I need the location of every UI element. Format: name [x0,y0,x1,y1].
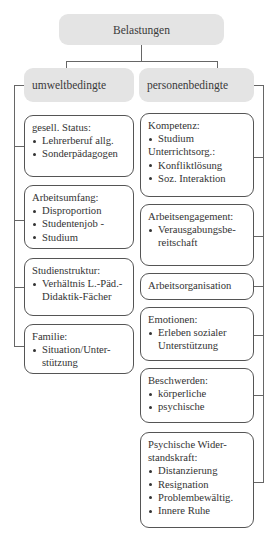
right-tick-3 [254,286,263,287]
left-spine [14,85,15,347]
node-title: Emotionen: [148,313,247,326]
list-item: Studentenjob - [32,217,127,230]
connector-root-down [141,45,142,62]
node-psychische-widerstandskraft: Psychische Wider- standskraft: Distanzie… [140,432,254,528]
node-title: Arbeitsorganisation [148,279,247,292]
list-item: Disproportion [32,204,127,217]
left-tick-2 [14,220,24,221]
node-title: Studienstruktur: [32,264,127,277]
category-umweltbedingte: umweltbedingte [24,68,134,102]
list-item: Erleben sozialer Unterstützung [148,326,247,352]
node-title: Arbeitsengagement: [148,210,247,223]
list-item: Situation/Unter- stützung [32,343,127,369]
right-tick-5 [254,395,263,396]
list-item: Sonderpädagogen [32,147,127,160]
list-item: Studium [148,132,247,145]
node-arbeitsengagement: Arbeitsengagement: Verausgabungsbe- reit… [140,204,254,266]
node-title: Kompetenz: [148,119,247,132]
root-node: Belastungen [59,14,224,45]
right-spine [263,85,264,483]
category-label: personenbedingte [139,79,228,91]
list-item: Verhältnis L.-Päd.- Didaktik-Fächer [32,277,127,303]
right-spine-top [253,85,263,86]
left-tick-4 [14,346,24,347]
left-spine-top [14,85,24,86]
category-personenbedingte: personenbedingte [139,68,254,102]
node-title: Arbeitsumfang: [32,191,127,204]
node-familie: Familie: Situation/Unter- stützung [24,324,134,374]
list-item: Problembewältig. [148,491,247,504]
node-subtitle: Unterrichtsorg.: [148,145,247,158]
node-beschwerden: Beschwerden: körperliche psychische [140,368,254,423]
node-title: Psychische Wider- standskraft: [148,438,247,464]
list-item: Konfliktlösung [148,159,247,172]
node-studienstruktur: Studienstruktur: Verhältnis L.-Päd.- Did… [24,258,134,316]
list-item: Distanzierung [148,464,247,477]
list-item: Innere Ruhe [148,504,247,517]
root-label: Belastungen [113,24,170,36]
category-label: umweltbedingte [24,79,106,91]
node-arbeitsorganisation: Arbeitsorganisation [140,273,254,300]
node-emotionen: Emotionen: Erleben sozialer Unterstützun… [140,307,254,361]
list-item: Verausgabungsbe- reitschaft [148,223,247,249]
list-item: körperliche [148,387,247,400]
list-item: psychische [148,400,247,413]
connector-horizontal [66,61,218,62]
right-tick-2 [254,236,263,237]
node-arbeitsumfang: Arbeitsumfang: Disproportion Studentenjo… [24,185,134,249]
node-title: Beschwerden: [148,374,247,387]
right-tick-6 [254,482,263,483]
right-tick-1 [254,157,263,158]
node-title: gesell. Status: [32,121,127,134]
left-tick-1 [14,146,24,147]
node-gesell-status: gesell. Status: Lehrerberuf allg. Sonder… [24,115,134,177]
list-item: Resignation [148,478,247,491]
node-title: Familie: [32,330,127,343]
list-item: Studium [32,231,127,244]
node-kompetenz: Kompetenz: Studium Unterrichtsorg.: Konf… [140,113,254,197]
left-tick-3 [14,287,24,288]
list-item: Soz. Interaktion [148,172,247,185]
right-tick-4 [254,335,263,336]
list-item: Lehrerberuf allg. [32,134,127,147]
